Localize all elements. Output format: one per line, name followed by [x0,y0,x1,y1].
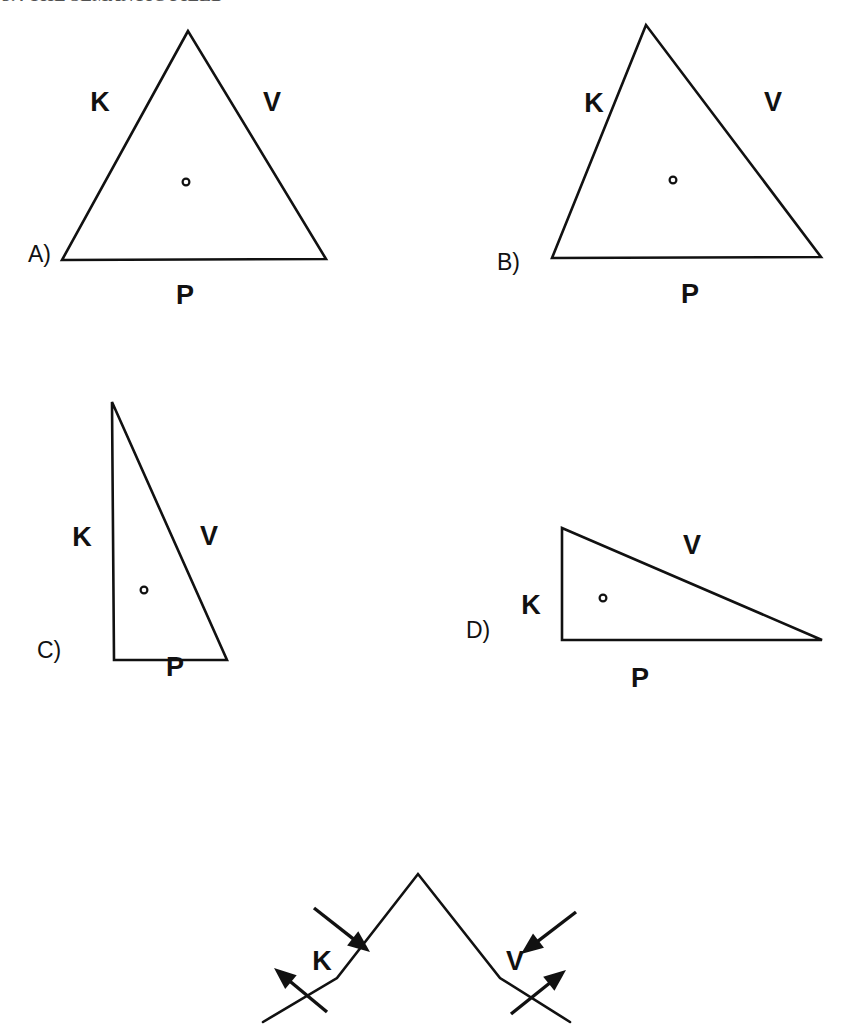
triangle-b-center-point [670,177,677,184]
triangle-b-label-p: P [681,279,699,309]
arrow-inward-right [521,912,576,954]
zigzag-label-k: K [312,946,332,976]
triangle-d-label-p: P [631,663,649,693]
panel-c: K V P C) [37,402,227,682]
triangle-c-label-p: P [166,652,184,682]
figure-root: 3.4 THE SEMANTIC FIELD K V P A) K V P B)… [0,0,848,1026]
panel-label-a: A) [28,241,51,267]
panel-a: K V P A) [28,31,326,310]
triangle-b-outline [552,25,821,258]
triangle-b-label-k: K [584,88,604,118]
panel-label-c: C) [37,637,61,663]
triangle-d-label-v: V [683,530,701,560]
triangle-a-label-k: K [90,87,110,117]
triangle-c-label-v: V [200,521,218,551]
panel-b: K V P B) [497,25,821,309]
panel-d: K V P D) [466,528,822,693]
triangle-c-center-point [141,587,148,594]
triangle-a-label-p: P [176,280,194,310]
arrow-outward-right [511,970,566,1014]
panel-bottom-zigzag: K V [263,874,576,1022]
triangle-d-label-k: K [521,590,541,620]
triangle-a-center-point [183,179,190,186]
triangle-c-label-k: K [72,522,92,552]
triangle-d-center-point [600,595,607,602]
triangle-a-label-v: V [263,87,281,117]
zigzag-label-v: V [506,946,524,976]
panel-label-d: D) [466,617,490,643]
triangle-b-label-v: V [764,87,782,117]
triangle-a-outline [62,31,326,260]
panel-label-b: B) [497,249,520,275]
figure-canvas: K V P A) K V P B) K V P C) K V [0,0,848,1026]
